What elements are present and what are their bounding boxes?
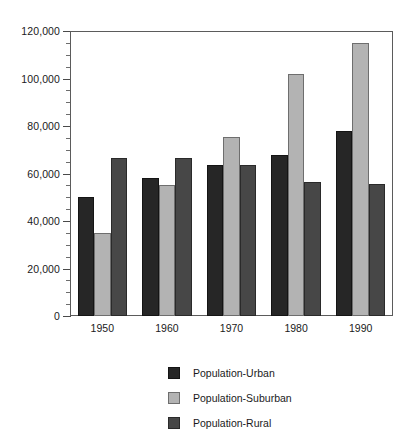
bar <box>78 197 95 316</box>
bar <box>207 165 224 316</box>
bar <box>175 158 192 316</box>
bar-group <box>142 31 192 316</box>
chart-legend: Population-Urban Population-Suburban Pop… <box>0 360 415 435</box>
bar <box>94 233 111 316</box>
bar <box>352 43 369 316</box>
legend-item-rural: Population-Rural <box>0 410 415 435</box>
legend-label-suburban: Population-Suburban <box>193 392 292 404</box>
y-tick-label: 0 <box>54 310 60 322</box>
bar <box>240 165 257 316</box>
y-tick-label: 100,000 <box>21 73 60 85</box>
legend-label-rural: Population-Rural <box>193 417 271 429</box>
y-tick-label: 60,000 <box>27 168 60 180</box>
bar <box>223 137 240 316</box>
legend-swatch-rural-icon <box>168 417 180 429</box>
bar <box>336 131 353 316</box>
y-tick-label: 40,000 <box>27 215 60 227</box>
legend-label-urban: Population-Urban <box>193 367 275 379</box>
bar <box>111 158 128 316</box>
y-tick-major <box>63 316 71 317</box>
bar-group <box>207 31 257 316</box>
bar <box>304 182 321 316</box>
bar-group <box>336 31 386 316</box>
bar <box>159 185 176 316</box>
legend-swatch-urban-icon <box>168 367 180 379</box>
bar-group <box>78 31 128 316</box>
legend-swatch-suburban-icon <box>168 392 180 404</box>
x-tick-label: 1990 <box>349 322 372 334</box>
bars-layer <box>70 31 393 316</box>
x-tick-label: 1950 <box>91 322 114 334</box>
bar-group <box>271 31 321 316</box>
legend-item-urban: Population-Urban <box>0 360 415 385</box>
y-tick-label: 80,000 <box>27 120 60 132</box>
bar <box>271 155 288 317</box>
y-tick-label: 120,000 <box>21 25 60 37</box>
bar <box>288 74 305 316</box>
x-tick-label: 1970 <box>220 322 243 334</box>
x-tick-label: 1980 <box>284 322 307 334</box>
legend-item-suburban: Population-Suburban <box>0 385 415 410</box>
x-tick-label: 1960 <box>155 322 178 334</box>
y-tick-label: 20,000 <box>27 263 60 275</box>
bar-chart: 020,00040,00060,00080,000100,000120,000 … <box>0 0 415 447</box>
bar <box>369 184 386 316</box>
bar <box>142 178 159 316</box>
